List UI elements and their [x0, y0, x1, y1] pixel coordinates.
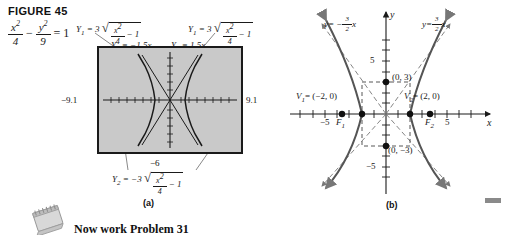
figure-page: FIGURE 45 x2 4 − y2 9 = 1 Y1 = 3 √ x2 4 … [0, 0, 507, 235]
equation-minus-sign: − [26, 26, 33, 41]
label-vertex-1: V1= (−2, 0) [296, 92, 337, 104]
point-vertex-2 [407, 111, 413, 117]
calc-window-xmax: 9.1 [246, 95, 257, 105]
equation-term-1-denominator: 4 [10, 35, 22, 47]
label-focus-2: F2 [425, 118, 434, 130]
figure-equation: x2 4 − y2 9 = 1 [8, 20, 69, 47]
radical-y2: √ x2 4 − 1 [144, 172, 184, 196]
panel-b-caption: (b) [386, 200, 398, 210]
now-work-problem-note: Now work Problem 31 [74, 222, 189, 235]
figure-title: FIGURE 45 [8, 5, 68, 17]
equation-term-2-denominator: 9 [37, 35, 49, 47]
calc-window-ymin: −6 [150, 158, 160, 168]
b-y-axis-label: y [390, 10, 394, 20]
label-right-asymptote: y=32x [422, 16, 446, 33]
equation-term-1: x2 4 [8, 20, 23, 47]
point-vertex-1 [359, 111, 365, 117]
equation-term-2-numerator: y2 [36, 20, 51, 35]
graphing-calculator-screen [97, 46, 243, 154]
label-focus-1: F1 [336, 118, 345, 130]
b-xtick-neg5: −5 [320, 118, 330, 127]
b-ytick-pos5: 5 [370, 56, 375, 65]
hyperbola-graph: x y −5 5 5 −5 y= −32x y=32x V1= (−2, 0) … [282, 8, 500, 198]
label-covertex-top: (0, 3) [392, 73, 412, 82]
margin-marker [485, 198, 501, 203]
equation-equals: = 1 [54, 26, 70, 41]
radical-y1-right: √ x2 4 − 1 [214, 22, 254, 46]
label-y2: Y2 = −3 √ x2 4 − 1 [112, 172, 183, 196]
calculator-plot [97, 46, 243, 154]
panel-a-caption: (a) [143, 198, 154, 208]
equation-term-1-numerator: x2 [8, 20, 23, 35]
label-covertex-bottom: (0, −3) [388, 146, 413, 155]
b-xtick-pos5: 5 [445, 118, 450, 127]
label-vertex-2: V2= (2, 0) [404, 92, 440, 104]
b-x-axis-label: x [487, 118, 491, 128]
calc-window-xmin: −9.1 [61, 95, 77, 105]
b-ytick-neg5: −5 [366, 162, 376, 171]
point-covertex-top [383, 79, 389, 85]
notebook-icon [30, 203, 66, 235]
label-left-asymptote: y= −32x [324, 16, 356, 33]
equation-term-2: y2 9 [36, 20, 51, 47]
